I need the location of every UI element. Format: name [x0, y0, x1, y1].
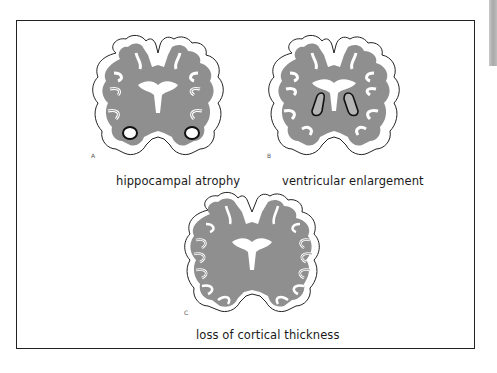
caption-loss-of-cortical-thickness: loss of cortical thickness — [196, 328, 340, 342]
panel-b: B — [264, 33, 404, 168]
caption-hippocampal-atrophy: hippocampal atrophy — [116, 174, 240, 188]
panel-letter: B — [267, 152, 271, 159]
brain-coronal-section-icon — [88, 33, 228, 168]
panel-c: C — [178, 190, 328, 325]
caption-ventricular-enlargement: ventricular enlargement — [282, 174, 424, 188]
brain-coronal-section-icon — [178, 190, 328, 325]
panel-letter: C — [184, 309, 188, 316]
brain-coronal-section-icon — [264, 33, 404, 168]
page-edge-strip — [489, 0, 497, 66]
panel-letter: A — [91, 152, 95, 159]
panel-a: A — [88, 33, 228, 168]
